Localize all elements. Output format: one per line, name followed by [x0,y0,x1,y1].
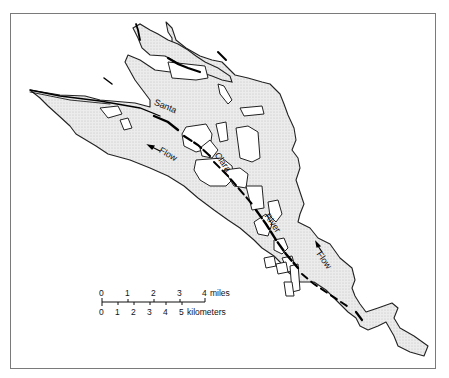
scale-bar-graphic [102,298,205,306]
scale-km-unit: kilometers [187,308,226,317]
scale-mile-3: 3 [177,289,182,298]
scale-miles-unit: miles [210,289,230,298]
scale-km-3: 3 [147,308,152,317]
scale-km-2: 2 [131,308,136,317]
scale-mile-1: 1 [125,289,130,298]
river-map [0,0,449,378]
scale-km-5: 5 [179,308,184,317]
scale-km-1: 1 [115,308,120,317]
scale-km-4: 4 [163,308,168,317]
scale-mile-4: 4 [202,289,207,298]
floodplain-area [30,22,428,356]
scale-mile-0: 0 [99,289,104,298]
scale-mile-2: 2 [151,289,156,298]
scale-km-0: 0 [99,308,104,317]
